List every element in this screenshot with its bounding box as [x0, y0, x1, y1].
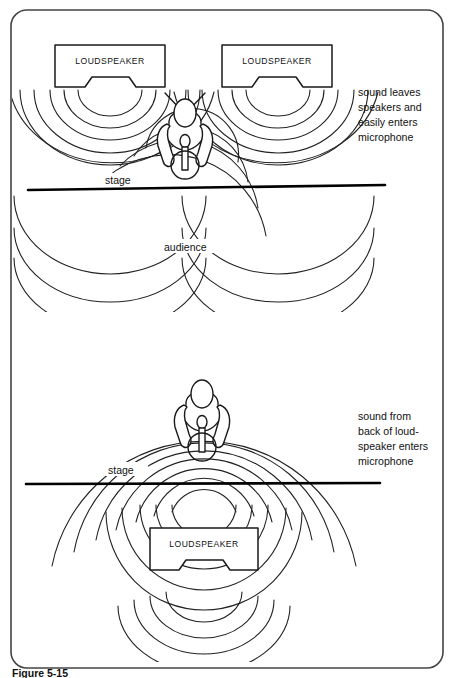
- annotation-top-line-1: sound leaves: [358, 86, 420, 98]
- stage-label-halo-top: stage: [103, 173, 143, 186]
- annotation-bottom-line-4: microphone: [358, 455, 413, 467]
- annotation-bottom-line-2: back of loud-: [358, 425, 419, 437]
- svg-text:stage: stage: [105, 174, 131, 186]
- annotation-top-line-4: microphone: [358, 131, 413, 143]
- annotation-top-line-3: easily enters: [358, 116, 417, 128]
- loudspeaker-label-bottom: LOUDSPEAKER: [169, 539, 238, 549]
- annotation-top-line-2: speakers and: [358, 101, 422, 113]
- loudspeaker-label-top-right: LOUDSPEAKER: [242, 56, 311, 66]
- loudspeaker-label-top-left: LOUDSPEAKER: [75, 56, 144, 66]
- annotation-bottom-line-1: sound from: [358, 410, 411, 422]
- audience-label-group: audience: [161, 239, 217, 253]
- acoustic-feedback-diagram: LOUDSPEAKER LOUDSPEAKER: [0, 0, 455, 678]
- annotation-bottom-line-3: speaker enters: [358, 440, 428, 452]
- stage-label-group-bottom: stage: [106, 462, 148, 476]
- stage-line-bottom: [26, 483, 380, 484]
- figure-caption: Figure 5-15: [12, 667, 68, 678]
- audience-label: audience: [164, 241, 207, 253]
- stage-label-bottom: stage: [108, 464, 134, 476]
- figure-page: LOUDSPEAKER LOUDSPEAKER: [0, 0, 455, 678]
